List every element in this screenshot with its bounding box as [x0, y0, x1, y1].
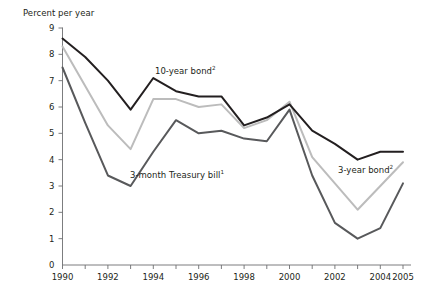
x-axis-tick-label: 1994 [142, 272, 164, 282]
y-axis-tick-label: 1 [49, 234, 54, 244]
x-axis-tick-label: 1992 [97, 272, 119, 282]
series-label-3-month-treasury-bill: 3-month Treasury bill1 [130, 170, 224, 180]
y-axis-tick-label: 0 [49, 260, 54, 270]
plot-area: 0123456789199019921994199619982000200220… [0, 0, 441, 290]
series-label-3-year-bond-footnote: 2 [390, 164, 394, 170]
series-label-10-year-bond-text: 10-year bond [155, 66, 212, 76]
y-axis-tick-label: 7 [49, 76, 54, 86]
series-label-3-year-bond-text: 3-year bond [338, 165, 390, 175]
series-line-3-month-treasury-bill [63, 68, 404, 239]
series-line-3-year-bond [63, 46, 404, 209]
x-axis-tick-label: 1998 [233, 272, 255, 282]
interest-rates-line-chart: Percent per year 01234567891990199219941… [0, 0, 441, 290]
series-line-10-year-bond [63, 39, 404, 160]
series-label-10-year-bond-footnote: 2 [212, 65, 216, 71]
x-axis-tick-label: 2002 [324, 272, 346, 282]
series-label-3-month-treasury-bill-text: 3-month Treasury bill [130, 170, 220, 180]
y-axis-tick-label: 6 [49, 102, 54, 112]
x-axis-tick-label: 2000 [279, 272, 301, 282]
y-axis-tick-label: 5 [49, 128, 54, 138]
x-axis-tick-label: 1996 [188, 272, 210, 282]
series-label-3-month-treasury-bill-footnote: 1 [220, 169, 224, 175]
series-label-3-year-bond: 3-year bond2 [338, 165, 393, 175]
x-axis-tick-label: 1990 [52, 272, 74, 282]
y-axis-tick-label: 8 [49, 49, 54, 59]
series-label-10-year-bond: 10-year bond2 [155, 66, 216, 76]
y-axis-tick-label: 9 [49, 23, 54, 33]
y-axis-tick-label: 2 [49, 207, 54, 217]
x-axis-tick-label: 2004 [369, 272, 391, 282]
y-axis-tick-label: 3 [49, 181, 54, 191]
x-axis-tick-label: 2005 [392, 272, 414, 282]
y-axis-tick-label: 4 [49, 155, 54, 165]
